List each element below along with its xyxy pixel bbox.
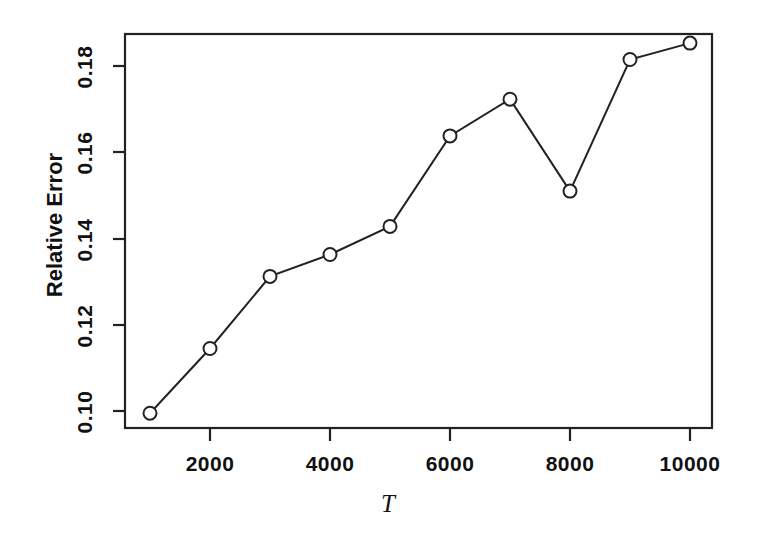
data-point-marker <box>204 342 217 355</box>
y-axis-title: Relative Error <box>42 105 68 345</box>
y-tick-label-2: 0.14 <box>73 212 97 268</box>
data-point-marker <box>624 53 637 66</box>
x-tick-label-3: 8000 <box>520 452 620 476</box>
y-axis-ticks <box>113 66 125 411</box>
y-tick-label-3: 0.16 <box>73 125 97 181</box>
data-point-marker <box>324 248 337 261</box>
data-point-marker <box>564 185 577 198</box>
data-point-marker <box>444 129 457 142</box>
x-tick-label-1: 4000 <box>280 452 380 476</box>
x-axis-title: T <box>368 490 408 518</box>
plot-frame <box>125 34 712 428</box>
x-tick-label-2: 6000 <box>400 452 500 476</box>
data-point-marker <box>684 37 697 50</box>
data-series-line <box>150 43 690 413</box>
data-point-marker <box>504 93 517 106</box>
x-axis-ticks <box>210 428 690 441</box>
x-tick-label-4: 10000 <box>634 452 746 476</box>
chart-figure: 0.10 0.12 0.14 0.16 0.18 2000 4000 6000 … <box>0 0 762 540</box>
data-point-marker <box>144 407 157 420</box>
data-point-marker <box>384 220 397 233</box>
y-tick-label-4: 0.18 <box>73 39 97 95</box>
y-tick-label-0: 0.10 <box>73 384 97 440</box>
data-point-marker <box>264 270 277 283</box>
y-tick-label-1: 0.12 <box>73 298 97 354</box>
x-tick-label-0: 2000 <box>160 452 260 476</box>
